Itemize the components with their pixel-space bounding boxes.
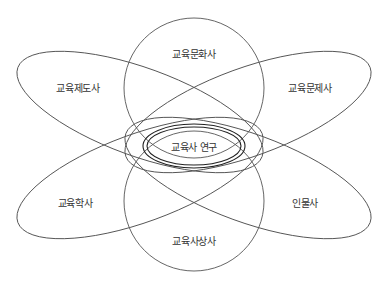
culture-history-circle <box>124 18 264 158</box>
label-biography: 인물사 <box>292 195 318 210</box>
label-problem-history: 교육문제사 <box>288 80 332 95</box>
label-culture-history: 교육문화사 <box>172 46 216 61</box>
label-thought-history: 교육사상사 <box>172 233 216 248</box>
label-institution-history: 교육제도사 <box>56 80 100 95</box>
institution-history-ellipse <box>3 26 277 198</box>
biography-ellipse <box>111 92 384 264</box>
discipline-history-ellipse <box>3 92 277 264</box>
problem-history-ellipse <box>111 26 384 198</box>
label-center: 교육사 연구 <box>171 139 217 154</box>
label-discipline-history: 교육학사 <box>58 195 93 210</box>
